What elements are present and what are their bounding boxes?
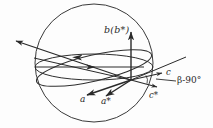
a-star-axis-label: a* (101, 97, 111, 106)
secondary-ray-line (34, 58, 131, 80)
figure-drawing (0, 0, 213, 128)
a-axis-label: a (80, 95, 85, 104)
c-axis-label: c (166, 68, 171, 77)
b-axis-label: b(b*) (104, 25, 129, 35)
crystallographic-sphere-figure: b(b*) a a* c c* β-90° (0, 0, 213, 128)
beta-angle-leader-line (156, 79, 176, 81)
c-star-axis-vector (131, 80, 157, 87)
a-star-axis-vector (106, 80, 131, 96)
beta-angle-label: β-90° (177, 76, 201, 85)
c-star-axis-label: c* (149, 91, 158, 100)
incident-ray-line (16, 41, 131, 80)
sphere-outline (35, 4, 153, 122)
a-axis-vector (87, 80, 131, 95)
